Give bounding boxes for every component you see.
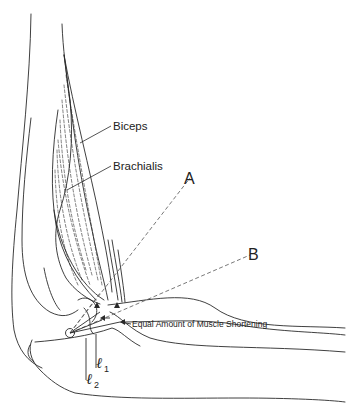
brachialis-muscle (52, 110, 96, 300)
biceps-leader (80, 126, 111, 143)
muscle-fibers (55, 75, 102, 285)
brachialis-label: Brachialis (113, 160, 163, 172)
line-a (70, 178, 190, 333)
biceps-label: Biceps (113, 120, 148, 132)
l1-symbol: ℓ (96, 354, 102, 372)
elbow-diagram: Biceps Brachialis A B Equal Amount of Mu… (0, 0, 357, 410)
line-b-label: B (248, 246, 259, 263)
upper-arm-outline (12, 14, 42, 368)
shortening-label: Equal Amount of Muscle Shortening (132, 319, 267, 329)
front-arm-outline (56, 24, 100, 304)
line-a-label: A (184, 170, 195, 187)
l2-symbol: ℓ (86, 370, 92, 388)
l1-subscript: 1 (104, 364, 109, 374)
humerus-line (22, 118, 78, 316)
biceps-muscle (64, 55, 112, 292)
l2-subscript: 2 (94, 380, 99, 390)
